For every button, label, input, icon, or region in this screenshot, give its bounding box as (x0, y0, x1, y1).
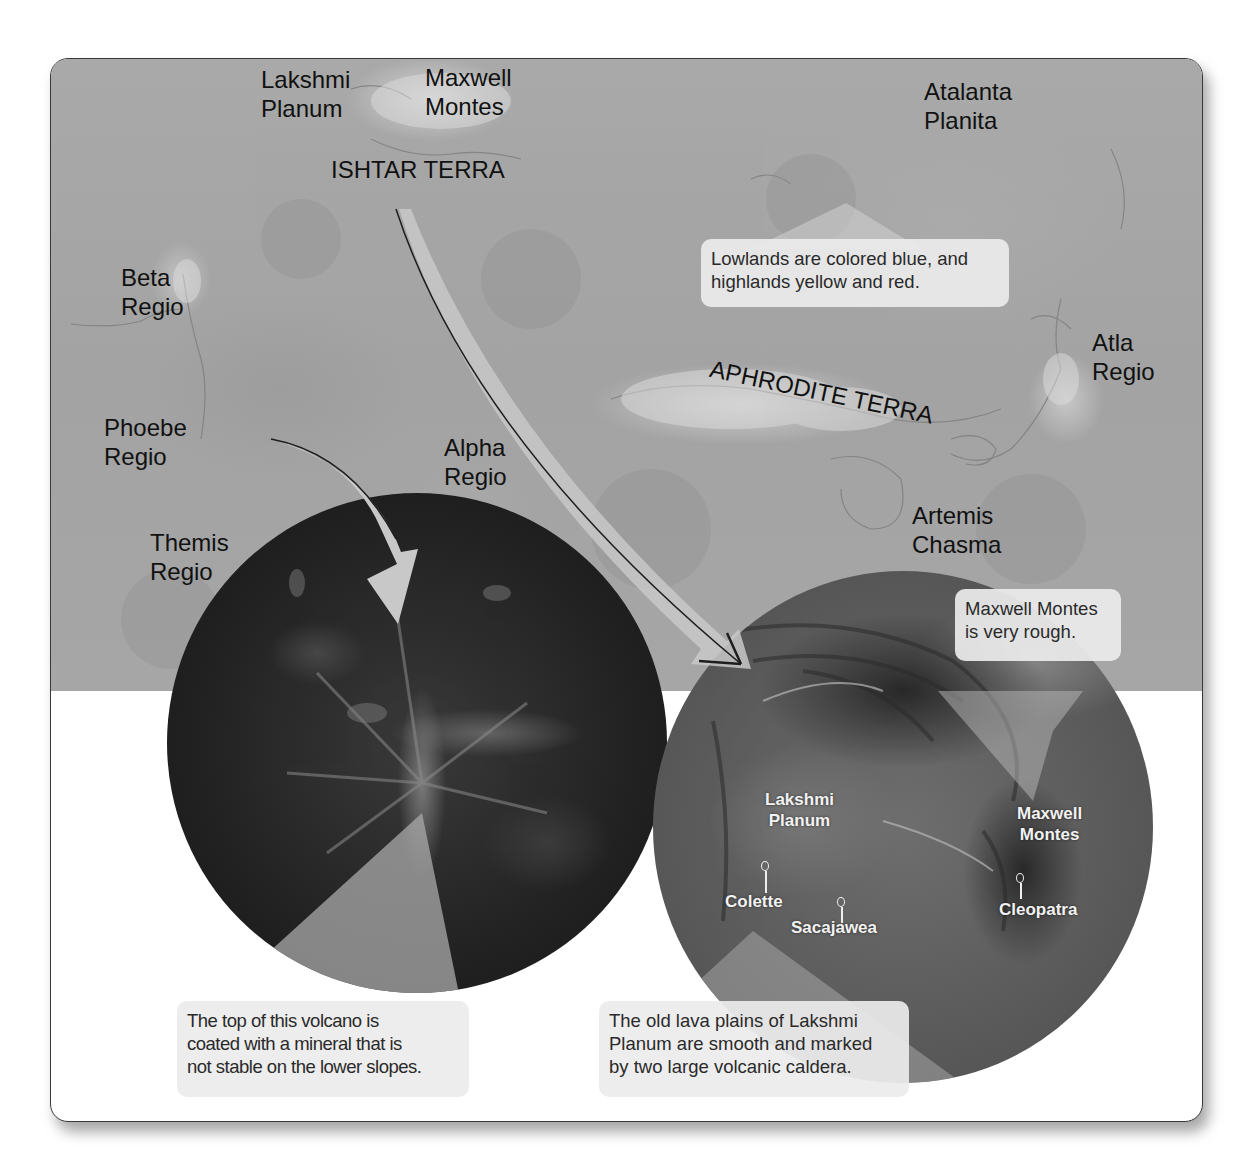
closeup-label-cleopatra: Cleopatra (999, 899, 1077, 920)
callout-volcano-top: The top of this volcano is coated with a… (177, 1001, 469, 1097)
callout-maxwell-rough: Maxwell Montes is very rough. (955, 589, 1121, 661)
callout-map-colors: Lowlands are colored blue, and highlands… (701, 239, 1009, 307)
cleopatra-pin-icon (1020, 883, 1022, 899)
colette-pin-icon (765, 871, 767, 893)
closeup-label-sacajawea: Sacajawea (791, 917, 877, 938)
closeup-volcano-circle (167, 493, 667, 993)
closeup-label-colette: Colette (725, 891, 783, 912)
volcano-texture (167, 493, 667, 993)
callout-lakshmi-plains: The old lava plains of Lakshmi Planum ar… (599, 1001, 909, 1097)
figure-frame: Lakshmi Planum Maxwell Montes ISHTAR TER… (50, 58, 1203, 1122)
closeup-label-lakshmi-planum: Lakshmi Planum (765, 789, 834, 831)
closeup-label-maxwell-montes: Maxwell Montes (1017, 803, 1082, 845)
